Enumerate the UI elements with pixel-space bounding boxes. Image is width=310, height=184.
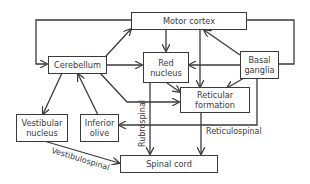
label-rubrospinal: Rubrospinal xyxy=(138,100,147,147)
node-cerebellum: Cerebellum xyxy=(48,56,107,74)
node-spinal-cord: Spinal cord xyxy=(120,155,218,173)
label-reticulospinal: Reticulospinal xyxy=(206,127,262,136)
motor-control-diagram: Motor cortex Cerebellum Red nucleus Basa… xyxy=(0,0,310,184)
node-vestibular-nucleus: Vestibular nucleus xyxy=(16,114,68,142)
node-inferior-olive: Inferior olive xyxy=(80,114,119,142)
node-red-nucleus: Red nucleus xyxy=(143,52,189,83)
node-motor-cortex: Motor cortex xyxy=(131,12,247,30)
node-reticular-formation: Reticular formation xyxy=(180,87,250,113)
node-basal-ganglia: Basal ganglia xyxy=(240,51,279,79)
